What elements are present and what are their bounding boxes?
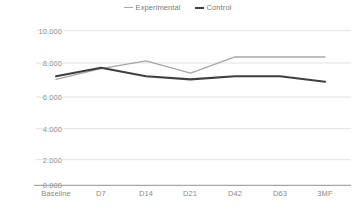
line-chart: Experimental Control 10.000 8.000 6.000 … bbox=[0, 0, 355, 216]
plot-area: 10.000 8.000 6.000 4.000 2.000 0.000 Bas… bbox=[0, 0, 355, 216]
gridlines bbox=[36, 31, 351, 160]
plot-canvas bbox=[0, 0, 355, 216]
series-group bbox=[56, 57, 325, 82]
